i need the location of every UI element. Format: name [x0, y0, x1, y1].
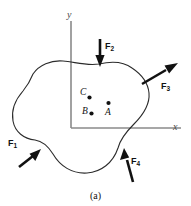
figure-canvas [0, 0, 191, 206]
point-b-dot [89, 111, 93, 115]
force-f1-sub: 1 [14, 142, 18, 149]
force-f2-label: F2 [105, 42, 114, 51]
force-f1-arrowhead [30, 149, 42, 161]
force-f3-arrowhead [165, 63, 179, 74]
point-a-label: A [105, 108, 111, 118]
force-f4-sub: 4 [137, 160, 141, 167]
force-f4-base: F [131, 156, 137, 166]
point-c-label: C [80, 88, 86, 98]
force-f4-label: F4 [131, 157, 140, 166]
x-axis-label: x [173, 122, 177, 132]
force-f1-base: F [8, 138, 14, 148]
force-f1-shaft [19, 156, 33, 167]
force-f3-label: F3 [161, 82, 170, 91]
force-f1-label: F1 [8, 139, 17, 148]
force-f3-sub: 3 [167, 85, 171, 92]
force-f2-base: F [105, 41, 111, 51]
force-f3-base: F [161, 81, 167, 91]
point-b-label: B [82, 107, 88, 117]
figure-caption: (a) [0, 190, 191, 201]
force-f2-sub: 2 [111, 45, 115, 52]
force-f4-arrowhead [120, 148, 129, 160]
figure-diagram: y x C B A F1 F2 F3 F4 (a) [0, 0, 191, 206]
point-c-dot [87, 95, 91, 99]
y-axis-label: y [67, 10, 71, 20]
point-a-dot [106, 101, 110, 105]
force-f2-arrowhead [95, 55, 104, 67]
